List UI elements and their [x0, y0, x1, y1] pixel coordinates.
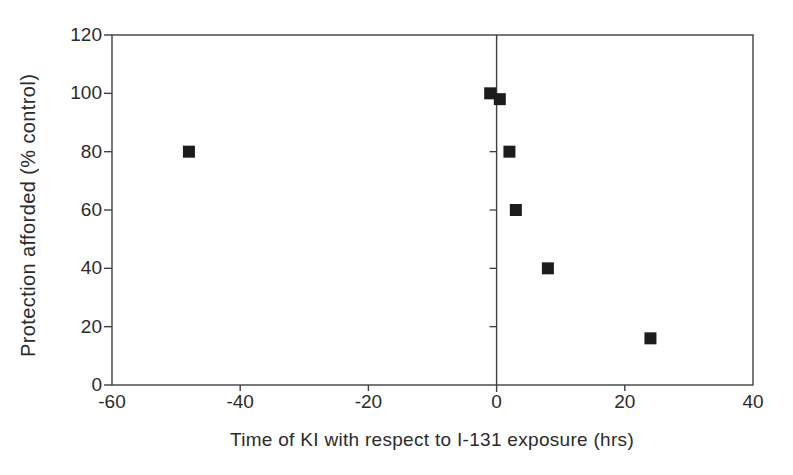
- x-tick-label: 40: [721, 391, 785, 413]
- y-tick-label: 40: [52, 257, 102, 279]
- data-point-marker: [183, 146, 195, 158]
- data-point-marker: [644, 332, 656, 344]
- x-tick-label: -20: [336, 391, 400, 413]
- x-tick-label: 0: [465, 391, 529, 413]
- y-tick-label: 60: [52, 199, 102, 221]
- y-tick-label: 80: [52, 141, 102, 163]
- data-point-marker: [542, 262, 554, 274]
- data-point-marker: [510, 204, 522, 216]
- scatter-plot-figure: Protection afforded (% control) Time of …: [0, 0, 793, 475]
- y-tick-label: 20: [52, 316, 102, 338]
- data-point-marker: [503, 146, 515, 158]
- data-point-marker: [494, 93, 506, 105]
- plot-frame: [112, 35, 753, 385]
- y-tick-label: 120: [52, 24, 102, 46]
- x-tick-label: 20: [593, 391, 657, 413]
- y-tick-label: 100: [52, 82, 102, 104]
- x-tick-label: -40: [208, 391, 272, 413]
- x-tick-label: -60: [80, 391, 144, 413]
